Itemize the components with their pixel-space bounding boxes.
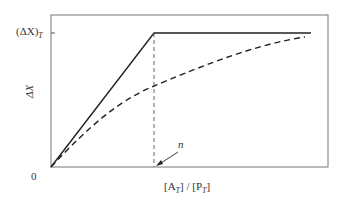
plot-frame bbox=[51, 15, 328, 167]
y-top-tick-label: (ΔX)T bbox=[16, 25, 43, 40]
y-axis-label: ΔX bbox=[23, 85, 35, 98]
arrowhead-icon bbox=[156, 160, 163, 166]
x-axis-label: [AT] / [PT] bbox=[164, 180, 210, 195]
annotation-n-label: n bbox=[178, 138, 184, 150]
origin-label: 0 bbox=[31, 170, 37, 182]
